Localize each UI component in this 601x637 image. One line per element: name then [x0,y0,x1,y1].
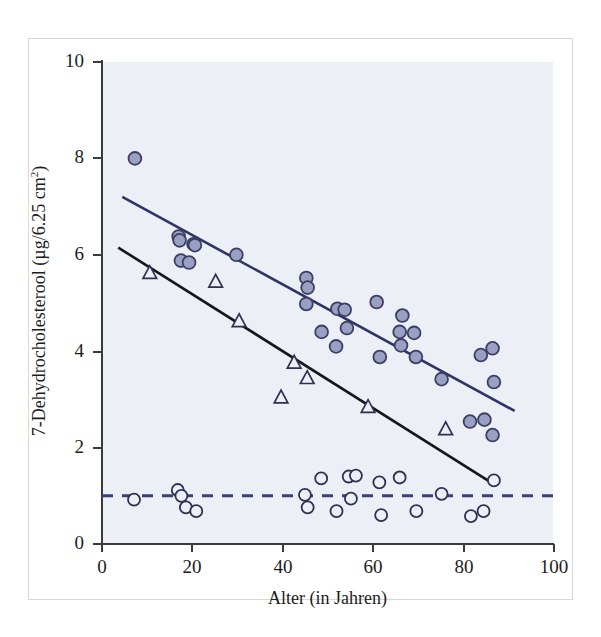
y-tick-8 [93,157,101,159]
y-tick-0 [93,543,101,545]
x-tick-label-0: 0 [72,556,132,578]
x-tick-100 [553,544,555,552]
figure-panel: 10 8 6 4 2 0 0 20 40 60 80 100 Alter (in… [0,0,601,637]
x-tick-40 [282,544,284,552]
x-tick-60 [372,544,374,552]
y-tick-10 [93,61,101,63]
y-axis-title-main: 7-Dehydrocholesterool (µg/6.25 cm [29,177,49,436]
y-axis-title: 7-Dehydrocholesterool (µg/6.25 cm2) [28,66,50,536]
y-tick-label-10: 10 [58,50,84,72]
x-tick-80 [463,544,465,552]
y-axis-line [101,60,103,546]
x-axis-line [101,543,554,545]
x-tick-label-20: 20 [162,556,222,578]
y-tick-label-0: 0 [58,532,84,554]
y-tick-label-8: 8 [58,146,84,168]
y-tick-4 [93,351,101,353]
x-tick-label-60: 60 [343,556,403,578]
x-tick-label-100: 100 [524,556,584,578]
y-axis-title-tail: ) [29,166,49,172]
x-tick-0 [101,544,103,552]
x-axis-title: Alter (in Jahren) [102,588,553,609]
x-tick-label-40: 40 [253,556,313,578]
y-tick-2 [93,447,101,449]
y-tick-label-2: 2 [58,436,84,458]
x-tick-20 [191,544,193,552]
y-tick-6 [93,254,101,256]
plot-area-background [102,62,553,544]
y-tick-label-4: 4 [58,340,84,362]
x-tick-label-80: 80 [434,556,494,578]
y-tick-label-6: 6 [58,243,84,265]
y-axis-title-superscript: 2 [28,172,40,178]
